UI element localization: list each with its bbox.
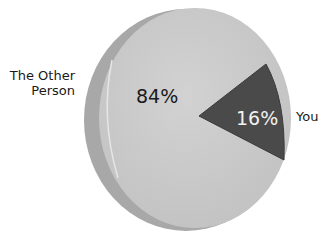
label-other-line1: The Other [8, 68, 75, 83]
percent-other-person: 84% [136, 85, 178, 107]
percent-you: 16% [236, 107, 278, 129]
label-other-line2: Person [8, 83, 75, 98]
label-other-person: The Other Person [8, 68, 75, 98]
pie-chart: The Other Person You 84% 16% [0, 0, 327, 237]
label-you: You [296, 109, 318, 124]
